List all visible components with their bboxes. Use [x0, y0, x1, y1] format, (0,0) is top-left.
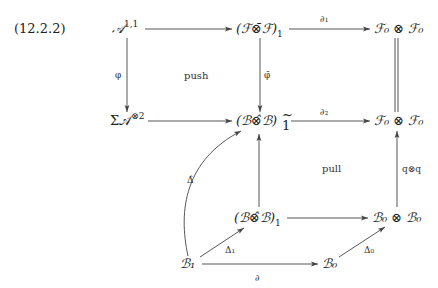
svg-text:(ℱ⊗̄ℱ)1: (ℱ⊗̄ℱ)1	[236, 21, 283, 39]
node-A11: 𝒜1,1	[112, 19, 138, 36]
label-partial2: ∂₂	[320, 107, 329, 117]
label-phi: φ	[115, 70, 121, 80]
commutative-diagram: (12.2.2) 𝒜1,1 (ℱ⊗̄ℱ)1 ℱ₀ ⊗ ℱ₀ Σ𝒜⊗2 (ℬ⊗̂ℬ…	[0, 0, 438, 288]
label-Delta1: Δ₁	[225, 245, 235, 255]
svg-text:(ℬ⊗̂ℬ)1: (ℬ⊗̂ℬ)1	[234, 210, 281, 228]
node-BB1: (ℬ⊗̂ℬ)1	[234, 210, 281, 228]
label-Deltahat: Δ̂	[187, 175, 194, 185]
svg-text:𝒜1,1: 𝒜1,1	[112, 19, 138, 36]
svg-text:(ℬ⊗̂ℬ): (ℬ⊗̂ℬ)	[236, 113, 277, 128]
node-FF1: (ℱ⊗̄ℱ)1	[236, 21, 283, 39]
label-partial1: ∂₁	[320, 14, 328, 24]
node-B0: ℬ₀	[322, 256, 338, 271]
arrow-Delta1	[200, 228, 244, 257]
region-label-push: push	[184, 70, 209, 81]
node-B0B0: ℬ₀ ⊗ ℬ₀	[372, 210, 422, 225]
node-BB1tilde: (ℬ⊗̂ℬ) ~ 1	[236, 107, 293, 133]
svg-text:Σ𝒜⊗2: Σ𝒜⊗2	[110, 111, 144, 128]
label-Delta0: Δ₀	[364, 245, 374, 255]
double-line-equality	[395, 38, 398, 112]
label-qq: q⊗q	[402, 164, 421, 174]
equation-number: (12.2.2)	[14, 21, 66, 36]
arrow-Deltahat	[184, 131, 241, 256]
label-partial: ∂	[255, 273, 260, 283]
node-B1: ℬ₁	[180, 256, 195, 271]
node-F0F0-mid: ℱ₀ ⊗ ℱ₀	[374, 113, 424, 128]
node-SigmaA: Σ𝒜⊗2	[110, 111, 144, 128]
label-phibar: φ̄	[264, 70, 270, 80]
arrow-Delta0	[339, 227, 385, 257]
svg-text:1: 1	[282, 118, 290, 133]
region-label-pull: pull	[322, 163, 341, 174]
node-F0F0-top: ℱ₀ ⊗ ℱ₀	[374, 21, 424, 36]
